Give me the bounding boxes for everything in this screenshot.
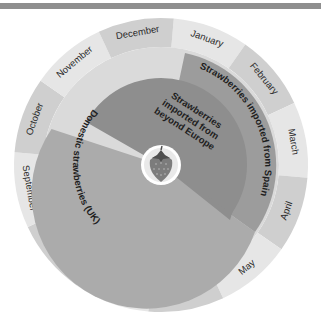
strawberry-season-wheel: JanuaryFebruaryMarchAprilMayJuneJulyAugu… <box>0 0 321 328</box>
strawberry-icon <box>141 145 181 185</box>
